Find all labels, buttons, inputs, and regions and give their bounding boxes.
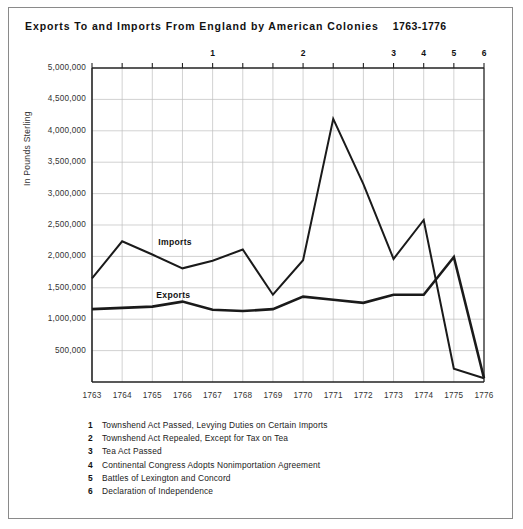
footnote-number: 5 [88,473,102,483]
footnote-number: 2 [88,433,102,443]
y-tick-500000: 500,000 [24,346,86,355]
series-label-exports: Exports [156,290,190,300]
footnote-item: 2Townshend Act Repealed, Except for Tax … [88,433,468,443]
event-marker-5: 5 [445,48,463,58]
event-marker-4: 4 [415,48,433,58]
footnote-number: 4 [88,460,102,470]
x-tick-1763: 1763 [75,391,109,400]
x-tick-1771: 1771 [316,391,350,400]
x-tick-1770: 1770 [286,391,320,400]
footnote-text: Continental Congress Adopts Nonimportati… [102,460,320,470]
x-tick-1774: 1774 [407,391,441,400]
footnote-item: 5Battles of Lexington and Concord [88,473,468,483]
x-tick-1776: 1776 [467,391,501,400]
x-tick-1773: 1773 [377,391,411,400]
footnote-number: 3 [88,446,102,456]
x-tick-1775: 1775 [437,391,471,400]
y-tick-1000000: 1,000,000 [24,314,86,323]
y-tick-5000000: 5,000,000 [24,63,86,72]
footnote-number: 6 [88,486,102,496]
y-tick-2000000: 2,000,000 [24,251,86,260]
footnote-item: 6Declaration of Independence [88,486,468,496]
event-marker-6: 6 [475,48,493,58]
footnote-item: 4Continental Congress Adopts Nonimportat… [88,460,468,470]
event-marker-1: 1 [204,48,222,58]
footnote-number: 1 [88,420,102,430]
y-tick-2500000: 2,500,000 [24,220,86,229]
y-tick-1500000: 1,500,000 [24,283,86,292]
footnote-list: 1Townshend Act Passed, Levying Duties on… [88,420,468,499]
x-tick-1769: 1769 [256,391,290,400]
footnote-text: Townshend Act Passed, Levying Duties on … [102,420,328,430]
footnote-item: 3Tea Act Passed [88,446,468,456]
footnote-text: Townshend Act Repealed, Except for Tax o… [102,433,288,443]
x-tick-1765: 1765 [135,391,169,400]
event-marker-2: 2 [294,48,312,58]
x-tick-1772: 1772 [346,391,380,400]
x-tick-1764: 1764 [105,391,139,400]
series-label-imports: Imports [158,237,192,247]
x-tick-1767: 1767 [196,391,230,400]
event-marker-3: 3 [385,48,403,58]
footnote-text: Tea Act Passed [102,446,162,456]
y-tick-3000000: 3,000,000 [24,189,86,198]
y-tick-4000000: 4,000,000 [24,126,86,135]
x-tick-1768: 1768 [226,391,260,400]
footnote-text: Battles of Lexington and Concord [102,473,231,483]
y-tick-3500000: 3,500,000 [24,157,86,166]
footnote-text: Declaration of Independence [102,486,213,496]
footnote-item: 1Townshend Act Passed, Levying Duties on… [88,420,468,430]
x-tick-1766: 1766 [165,391,199,400]
y-tick-4500000: 4,500,000 [24,94,86,103]
